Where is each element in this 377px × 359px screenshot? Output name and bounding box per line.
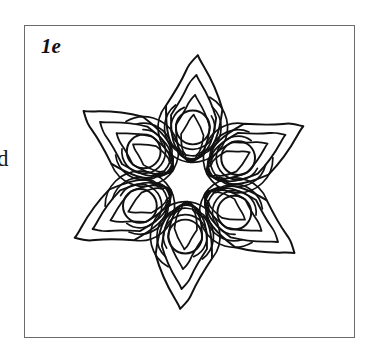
fixed-point-circle-2 [127, 135, 161, 169]
spiral-arc-2-1 [122, 130, 166, 174]
spiral-arc-5-1 [212, 191, 256, 235]
panel-label: 1e [41, 34, 61, 59]
fixed-point-circle-5 [217, 196, 251, 230]
figure-panel: 1e [24, 25, 355, 338]
contour-group [75, 55, 304, 309]
contour-plot [25, 26, 354, 337]
figure-page: d 1e [0, 0, 377, 359]
adjacent-panel-label-fragment: d [0, 146, 13, 172]
